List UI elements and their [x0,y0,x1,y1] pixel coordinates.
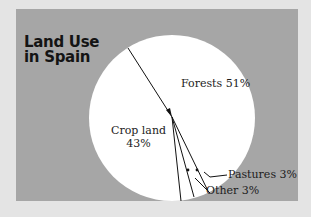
label-pastures: Pastures 3% [228,168,297,181]
dot-other [187,169,190,172]
label-other: Other 3% [206,184,259,197]
dot-pastures [196,169,199,172]
label-crop-name: Crop land [111,124,166,137]
pie-chart [0,0,311,217]
label-forests: Forests 51% [181,77,250,90]
label-crop-value: 43% [111,137,166,150]
label-crop-land: Crop land 43% [111,124,166,150]
